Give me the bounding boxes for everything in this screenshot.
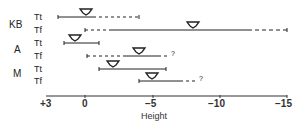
range-bar-m-tf (139, 79, 198, 83)
group-label-m: M (13, 68, 21, 79)
x-axis-title: Height (141, 111, 168, 121)
row-label: Tt (34, 12, 42, 22)
range-bar-kb-tf (85, 28, 287, 32)
x-axis: +3 0 −5 −10 −15 Height (40, 95, 292, 121)
row-label: Tf (34, 51, 42, 61)
mode-marker-icon (187, 22, 199, 28)
group-label-a: A (14, 44, 21, 55)
mode-marker-icon (133, 48, 145, 54)
row-label: Tf (34, 25, 42, 35)
mode-marker-icon (107, 61, 119, 67)
range-chart: KB A M Tt Tf Tt Tf Tt Tf (0, 0, 305, 126)
range-bar-m-tt (99, 67, 166, 71)
mode-marker-icon (146, 73, 158, 79)
range-bar-a-tf (87, 54, 170, 58)
row-label: Tt (34, 64, 42, 74)
x-tick-label: −15 (275, 98, 292, 109)
x-tick-label: −10 (208, 98, 225, 109)
group-label-kb: KB (9, 19, 23, 30)
x-tick-label: 0 (82, 98, 88, 109)
row-label: Tt (34, 38, 42, 48)
uncertain-mark: ? (171, 50, 175, 57)
uncertain-mark: ? (199, 75, 203, 82)
mode-marker-icon (69, 35, 81, 41)
range-bar-kb-tt (58, 15, 139, 19)
range-bar-a-tt (64, 41, 99, 45)
mode-marker-icon (80, 9, 92, 15)
x-tick-label: −5 (145, 98, 157, 109)
row-label: Tf (34, 76, 42, 86)
x-tick-label: +3 (40, 98, 52, 109)
